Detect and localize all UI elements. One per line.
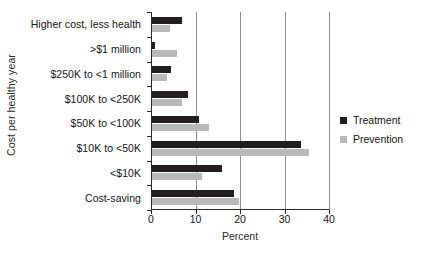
y-axis-tick-label: Cost-saving	[18, 185, 146, 210]
legend-swatch-icon	[340, 136, 347, 143]
y-axis-tick-mark	[147, 136, 151, 137]
bar-treatment	[151, 91, 188, 98]
x-axis-tick-label: 30	[279, 213, 291, 225]
y-axis-title-text: Cost per healthy year	[5, 54, 17, 156]
y-axis-tick-mark	[147, 161, 151, 162]
legend-item-label: Treatment	[353, 114, 400, 126]
x-axis-tick-mark	[240, 210, 241, 214]
x-axis-tick-mark	[329, 210, 330, 214]
y-axis-tick-labels: Higher cost, less health>$1 million$250K…	[18, 12, 146, 210]
bar-prevention	[151, 50, 177, 57]
x-axis-tick-label: 10	[190, 213, 202, 225]
y-axis-tick-mark	[147, 12, 151, 13]
bar-group	[151, 161, 329, 186]
bar-group	[151, 62, 329, 87]
bar-treatment	[151, 66, 171, 73]
bar-prevention	[151, 173, 202, 180]
x-axis-tick-labels: 010203040	[151, 213, 329, 227]
y-axis-tick-mark	[147, 37, 151, 38]
legend-item-treatment[interactable]: Treatment	[340, 114, 403, 126]
legend-swatch-icon	[340, 117, 347, 124]
x-axis-tick-label: 0	[148, 213, 154, 225]
x-axis-title: Percent	[151, 230, 329, 242]
y-axis-tick-label: $10K to <50K	[18, 136, 146, 161]
legend: TreatmentPrevention	[340, 114, 403, 152]
x-axis-tick-mark	[151, 210, 152, 214]
bar-prevention	[151, 25, 170, 32]
bar-group	[151, 111, 329, 136]
y-axis-tick-label: Higher cost, less health	[18, 12, 146, 37]
bar-prevention	[151, 74, 167, 81]
y-axis-tick-mark	[147, 62, 151, 63]
legend-item-prevention[interactable]: Prevention	[340, 133, 403, 145]
bar-prevention	[151, 149, 309, 156]
y-axis-tick-mark	[147, 111, 151, 112]
x-axis-tick-mark	[196, 210, 197, 214]
bar-prevention	[151, 99, 182, 106]
bar-treatment	[151, 190, 234, 197]
y-axis-tick-mark	[147, 185, 151, 186]
bar-chart: Cost per healthy year Higher cost, less …	[0, 0, 424, 262]
y-axis-tick-label: <$10K	[18, 161, 146, 186]
x-axis-tick-label: 40	[323, 213, 335, 225]
y-axis-tick-mark	[147, 210, 151, 211]
bar-series-container	[151, 12, 329, 210]
plot-area	[151, 12, 329, 210]
bar-prevention	[151, 198, 239, 205]
x-axis-tick-mark	[285, 210, 286, 214]
bar-group	[151, 86, 329, 111]
y-axis-tick-label: $100K to <250K	[18, 86, 146, 111]
y-axis-tick-mark	[147, 86, 151, 87]
bar-prevention	[151, 124, 209, 131]
bar-treatment	[151, 141, 301, 148]
y-axis-line	[151, 12, 152, 210]
bar-treatment	[151, 17, 182, 24]
bar-group	[151, 136, 329, 161]
y-axis-tick-label: $50K to <100K	[18, 111, 146, 136]
legend-item-label: Prevention	[353, 133, 403, 145]
bar-group	[151, 37, 329, 62]
x-axis-tick-label: 20	[234, 213, 246, 225]
y-axis-tick-label: >$1 million	[18, 37, 146, 62]
bar-treatment	[151, 165, 222, 172]
bar-treatment	[151, 116, 199, 123]
gridline	[329, 12, 330, 210]
bar-group	[151, 185, 329, 210]
bar-group	[151, 12, 329, 37]
y-axis-tick-label: $250K to <1 million	[18, 62, 146, 87]
